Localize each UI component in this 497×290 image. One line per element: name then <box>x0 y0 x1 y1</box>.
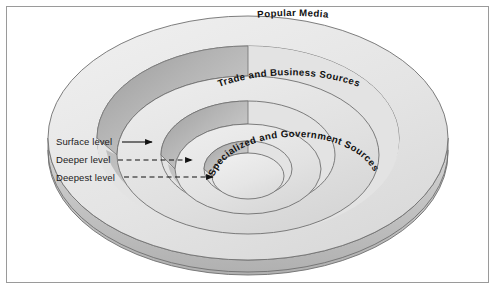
callout-label-surface-level: Surface level <box>56 136 112 147</box>
ring-label-outer: Popular Media <box>257 7 330 20</box>
figure-root: Popular Media Trade and Business Sources… <box>0 0 497 290</box>
callout-label-deepest-level: Deepest level <box>56 172 115 183</box>
callout-label-deeper-level: Deeper level <box>56 154 111 165</box>
